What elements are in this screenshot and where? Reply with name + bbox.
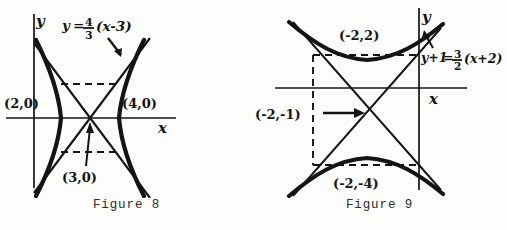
figure-8-panel: y x y = 4 3 (x-3) (2,0) (4,0) (3,0) Figu…: [0, 0, 253, 230]
figure-sheet: y x y = 4 3 (x-3) (2,0) (4,0) (3,0) Figu…: [0, 0, 507, 230]
x-axis-label: x: [157, 119, 168, 137]
equation-rhs: (x-3): [96, 18, 132, 34]
equation-fraction-denominator: 3: [85, 29, 93, 42]
figure-8-graph: y x y = 4 3 (x-3) (2,0) (4,0) (3,0): [0, 0, 253, 198]
equation-relation: =: [73, 17, 84, 33]
equation-rhs: (x+2): [464, 51, 503, 66]
equation-fraction-denominator: 2: [454, 60, 461, 72]
y-axis-label: y: [35, 12, 46, 30]
x-axis-label: x: [428, 90, 439, 108]
equation-fraction-numerator: 4: [85, 16, 93, 29]
figure-9-graph: y x y+1 = 3 2 (x+2) (-2,2) (-2,-1) (-2,-…: [253, 0, 506, 198]
center-pointer-arrow: [323, 108, 365, 118]
point-label-center: (3,0): [62, 170, 97, 185]
point-label-lower-vertex: (-2,-4): [333, 176, 379, 191]
figure-8-equation: y = 4 3 (x-3): [61, 16, 132, 42]
figure-9-equation: y+1 = 3 2 (x+2): [420, 48, 503, 72]
equation-pointer-arrow: [108, 38, 122, 57]
figure-8-caption: Figure 8: [0, 198, 253, 212]
figure-9-caption: Figure 9: [253, 198, 506, 212]
equation-relation: =: [443, 50, 453, 65]
equation-lhs: y: [61, 17, 71, 33]
point-label-right-vertex: (4,0): [122, 96, 157, 111]
center-pointer-arrow: [86, 122, 94, 166]
y-axis-label: y: [421, 8, 432, 26]
figure-9-panel: y x y+1 = 3 2 (x+2) (-2,2) (-2,-1) (-2,-…: [253, 0, 506, 230]
point-label-left-vertex: (2,0): [4, 96, 39, 111]
point-label-center: (-2,-1): [255, 107, 301, 122]
equation-fraction-numerator: 3: [454, 48, 461, 60]
point-label-upper-vertex: (-2,2): [339, 28, 379, 43]
